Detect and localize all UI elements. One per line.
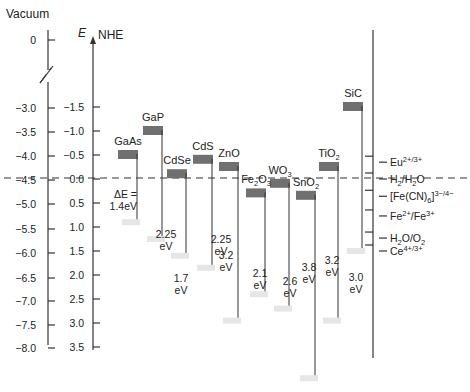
vacuum-tick-label: −7.5 xyxy=(0,319,36,331)
vacuum-tick-label: −6.5 xyxy=(0,272,36,284)
valence-band-WO3 xyxy=(274,306,292,312)
nhe-axis-arrow-icon xyxy=(90,36,96,44)
material-label-SnO2: SnO2 xyxy=(284,176,328,188)
valence-band-SiC xyxy=(347,248,365,254)
nhe-tick-label: −1.5 xyxy=(44,101,84,113)
material-label-TiO2: TiO2 xyxy=(307,147,351,159)
material-label-WO3: WO3 xyxy=(258,164,302,176)
vacuum-tick-label: −4.5 xyxy=(0,174,36,186)
nhe-tick-label: 1.0 xyxy=(44,221,84,233)
vacuum-tick-label: −5.0 xyxy=(0,198,36,210)
conduction-band-GaAs xyxy=(118,150,138,159)
nhe-axis-label: NHE xyxy=(98,29,123,41)
valence-band-Fe2O3 xyxy=(250,291,268,297)
nhe-tick-label: 0.5 xyxy=(44,197,84,209)
bandgap-label-GaAs: ΔE =1.4eV xyxy=(103,188,137,212)
conduction-band-ZnO xyxy=(219,162,239,171)
redox-label: Ce4+/3+ xyxy=(390,245,423,257)
vacuum-tick-label: −8.0 xyxy=(0,342,36,354)
nhe-tick-label: 2.5 xyxy=(44,293,84,305)
nhe-tick-label: −0.5 xyxy=(44,149,84,161)
redox-label: [Fe(CN)6]3−/4− xyxy=(390,190,454,202)
conduction-band-GaP xyxy=(143,126,163,135)
valence-band-ZnO xyxy=(223,318,241,324)
conduction-band-SiC xyxy=(343,102,363,111)
conduction-band-CdSe xyxy=(167,169,187,178)
material-label-GaP: GaP xyxy=(131,111,175,123)
bandgap-label-SiC: 3.0eV xyxy=(343,271,369,295)
material-label-CdSe: CdSe xyxy=(155,154,199,166)
conduction-band-TiO2 xyxy=(319,162,339,171)
vacuum-tick-label: −3.0 xyxy=(0,102,36,114)
bandgap-label-ZnO: 3.2eV xyxy=(213,249,239,273)
material-label-ZnO: ZnO xyxy=(207,147,251,159)
redox-label: Eu2+/3+ xyxy=(390,156,422,168)
vacuum-tick-label: −3.5 xyxy=(0,126,36,138)
valence-band-CdSe xyxy=(171,253,189,259)
nhe-axis-e-label: E xyxy=(78,27,86,39)
bandgap-label-GaP: 2.25eV xyxy=(153,228,179,252)
conduction-band-SnO2 xyxy=(296,191,316,200)
bandgap-label-CdSe: 1.7eV xyxy=(168,272,194,296)
bandgap-label-Fe2O3: 2.1eV xyxy=(247,267,273,291)
nhe-tick-label: 0.0 xyxy=(44,173,84,185)
vacuum-tick-label: −7.0 xyxy=(0,295,36,307)
vacuum-tick-label: 0 xyxy=(0,34,36,46)
valence-band-GaAs xyxy=(122,219,140,225)
nhe-tick-label: 1.5 xyxy=(44,245,84,257)
vacuum-tick-label: −4.0 xyxy=(0,150,36,162)
nhe-tick-label: −1.0 xyxy=(44,125,84,137)
band-edge-diagram: Vacuum0−3.0−3.5−4.0−4.5−5.0−5.5−6.0−6.5−… xyxy=(0,0,470,392)
nhe-tick-label: 2.0 xyxy=(44,269,84,281)
nhe-tick-label: 3.5 xyxy=(44,341,84,353)
redox-label: H2/H2O xyxy=(390,173,425,185)
vacuum-axis-label: Vacuum xyxy=(6,8,49,20)
redox-label: H2O/O2 xyxy=(390,232,425,244)
material-label-GaAs: GaAs xyxy=(106,135,150,147)
valence-band-SnO2 xyxy=(300,375,318,381)
conduction-band-Fe2O3 xyxy=(246,188,266,197)
valence-band-TiO2 xyxy=(323,318,341,324)
vacuum-tick-label: −5.5 xyxy=(0,223,36,235)
vacuum-tick-label: −6.0 xyxy=(0,247,36,259)
material-label-SiC: SiC xyxy=(331,87,375,99)
nhe-tick-label: 3.0 xyxy=(44,317,84,329)
bandgap-label-TiO2: 3.2eV xyxy=(319,254,345,278)
redox-label: Fe2+/Fe3+ xyxy=(390,210,435,222)
